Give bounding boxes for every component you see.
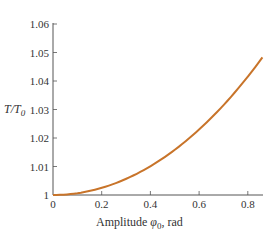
y-axis-title: T/T0: [4, 102, 26, 118]
y-tick-label: 1.02: [30, 132, 49, 144]
x-tick-label: 0.2: [95, 198, 109, 210]
y-tick-label: 1.01: [30, 161, 49, 173]
x-tick-label: 0.4: [144, 198, 158, 210]
pendulum-period-chart: 00.20.40.60.8 11.011.021.031.041.051.06 …: [0, 0, 278, 237]
y-tick-label: 1.05: [30, 47, 50, 59]
data-series-line: [53, 57, 262, 195]
x-ticks: 00.20.40.60.8: [50, 191, 255, 210]
y-tick-label: 1: [44, 189, 50, 201]
x-tick-label: 0.8: [241, 198, 255, 210]
y-tick-label: 1.04: [30, 75, 50, 87]
x-axis-title: Amplitude φ0, rad: [96, 215, 183, 231]
y-tick-label: 1.06: [30, 18, 50, 30]
y-tick-label: 1.03: [30, 104, 50, 116]
axes: [53, 23, 263, 195]
x-tick-label: 0.6: [192, 198, 206, 210]
x-tick-label: 0: [50, 198, 56, 210]
